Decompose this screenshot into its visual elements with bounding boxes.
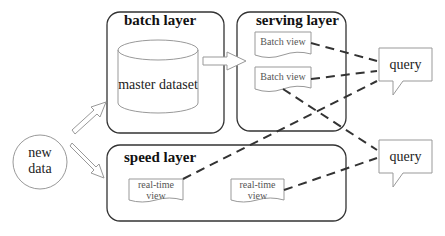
diagram-canvas — [0, 0, 445, 236]
realtime-view-2-line2: view — [231, 190, 284, 201]
realtime-view-1-line1: real-time — [129, 179, 183, 190]
realtime-view-2-line1: real-time — [231, 179, 284, 190]
realtime-view-1-line2: view — [129, 190, 183, 201]
batch-view-2-label: Batch view — [255, 71, 311, 82]
new-data-label-line2: data — [13, 161, 67, 177]
query-2-label: query — [379, 149, 432, 165]
edge-batchview2-query1 — [311, 71, 377, 79]
batch-layer-box — [107, 12, 224, 133]
edge-batchview2-query2 — [283, 89, 377, 150]
edge-batchview1-query1 — [311, 43, 377, 61]
new-data-label-line1: new — [13, 145, 67, 161]
batch-layer-title: batch layer — [124, 12, 196, 29]
master-dataset-label: master dataset — [118, 77, 198, 93]
query-1-label: query — [379, 57, 432, 73]
arrow-to-batch-icon — [72, 102, 106, 134]
speed-layer-title: speed layer — [124, 149, 196, 166]
arrow-to-speed-icon — [70, 143, 104, 178]
serving-layer-title: serving layer — [256, 12, 339, 29]
batch-view-1-label: Batch view — [255, 36, 311, 47]
edge-realtime2-query2 — [284, 158, 377, 190]
